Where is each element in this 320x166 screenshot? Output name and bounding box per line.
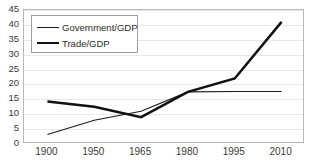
y-tick-label: 0 <box>14 138 19 148</box>
legend-line-icon-government <box>37 27 59 28</box>
legend-label-government: Government/GDP <box>62 22 138 33</box>
y-tick-label: 15 <box>8 93 19 103</box>
legend-label-trade: Trade/GDP <box>62 38 110 49</box>
y-tick-label: 35 <box>8 34 19 44</box>
x-tick-label: 2010 <box>269 146 291 158</box>
y-tick-label: 40 <box>8 19 19 29</box>
x-axis: 190019501965198019952010 <box>23 146 304 164</box>
y-tick-label: 25 <box>8 64 19 74</box>
y-tick-label: 20 <box>8 78 19 88</box>
x-tick-label: 1965 <box>129 146 151 158</box>
x-tick-label: 1995 <box>223 146 245 158</box>
x-tick-label: 1950 <box>82 146 104 158</box>
y-axis: 051015202530354045 <box>0 0 21 166</box>
legend: Government/GDP Trade/GDP <box>31 15 138 53</box>
y-tick-label: 30 <box>8 49 19 59</box>
y-tick-label: 10 <box>8 108 19 118</box>
series-line-government-gdp <box>47 92 281 135</box>
legend-line-icon-trade <box>37 42 59 45</box>
x-tick-label: 1980 <box>176 146 198 158</box>
y-tick-label: 5 <box>14 123 19 133</box>
legend-entry-trade: Trade/GDP <box>37 36 110 50</box>
y-tick-label: 45 <box>8 4 19 14</box>
legend-entry-government: Government/GDP <box>37 20 138 34</box>
x-tick-label: 1900 <box>35 146 57 158</box>
line-chart: 051015202530354045 190019501965198019952… <box>0 0 320 166</box>
